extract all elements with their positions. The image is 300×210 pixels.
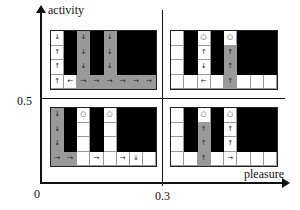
grid-cell bbox=[237, 60, 250, 75]
grid-cell bbox=[211, 137, 224, 152]
grid-cell bbox=[264, 60, 277, 75]
grid-cell bbox=[184, 46, 197, 61]
grid-cell bbox=[117, 46, 130, 61]
grid-cell: ↓ bbox=[77, 60, 90, 75]
grid-cell bbox=[90, 123, 103, 138]
grid-cell bbox=[90, 108, 103, 123]
grid-cell: ○ bbox=[77, 108, 90, 123]
grid-cell bbox=[264, 137, 277, 152]
grid-panel-top-left: ↓↓↓↑↓↓↑↓↓↑←→→→→→→ bbox=[50, 30, 157, 90]
grid-cell bbox=[251, 108, 264, 123]
grid-cell: → bbox=[51, 152, 64, 167]
grid-cell bbox=[90, 31, 103, 46]
grid-cell: ○ bbox=[198, 31, 211, 46]
grid-cell: ↑ bbox=[51, 46, 64, 61]
grid-cell: → bbox=[90, 75, 103, 90]
grid-cell: ○ bbox=[104, 108, 117, 123]
grid-cell bbox=[251, 137, 264, 152]
grid-cell bbox=[143, 137, 156, 152]
grid-cell bbox=[251, 123, 264, 138]
grid-cell bbox=[143, 46, 156, 61]
grid-cell bbox=[251, 60, 264, 75]
grid-cell: ○ bbox=[198, 108, 211, 123]
grid-cell: ↑ bbox=[224, 123, 237, 138]
grid-cell bbox=[130, 46, 143, 61]
grid-cell bbox=[90, 46, 103, 61]
grid-cell bbox=[251, 31, 264, 46]
grid-cell bbox=[117, 137, 130, 152]
y-axis bbox=[40, 10, 42, 183]
grid-cell: ↓ bbox=[198, 60, 211, 75]
x-tick-label: 0.3 bbox=[155, 189, 170, 204]
grid-cell: ↑ bbox=[51, 60, 64, 75]
grid-cell bbox=[251, 152, 264, 167]
activity-threshold-line bbox=[40, 98, 285, 99]
grid-cell bbox=[143, 123, 156, 138]
grid-cell: ↓ bbox=[51, 31, 64, 46]
grid-cell: ↓ bbox=[77, 46, 90, 61]
grid-cell bbox=[143, 108, 156, 123]
grid-cell bbox=[251, 46, 264, 61]
grid-cell bbox=[90, 60, 103, 75]
grid-cell bbox=[171, 108, 184, 123]
grid-cell bbox=[104, 152, 117, 167]
grid-cell bbox=[77, 137, 90, 152]
grid-cell: ↑ bbox=[198, 152, 211, 167]
grid-cell bbox=[211, 152, 224, 167]
grid-cell bbox=[77, 123, 90, 138]
grid-cell bbox=[143, 152, 156, 167]
grid-cell bbox=[264, 46, 277, 61]
grid-cell bbox=[130, 123, 143, 138]
grid-cell bbox=[77, 152, 90, 167]
y-tick-label: 0.5 bbox=[17, 94, 32, 109]
grid-cell: ↑ bbox=[224, 46, 237, 61]
grid-cell bbox=[251, 75, 264, 90]
grid-cell bbox=[184, 108, 197, 123]
grid-cell bbox=[237, 123, 250, 138]
grid-cell bbox=[64, 137, 77, 152]
grid-cell: ↑ bbox=[198, 123, 211, 138]
grid-panel-top-right: ○○↑↑↓↑←↑ bbox=[170, 30, 278, 90]
grid-cell bbox=[171, 46, 184, 61]
grid-cell bbox=[237, 152, 250, 167]
grid-cell bbox=[171, 31, 184, 46]
grid-cell bbox=[237, 137, 250, 152]
grid-cell bbox=[171, 60, 184, 75]
grid-cell: ↓ bbox=[130, 152, 143, 167]
origin-label: 0 bbox=[34, 187, 40, 202]
grid-cell: → bbox=[130, 75, 143, 90]
grid-cell bbox=[211, 108, 224, 123]
grid-cell bbox=[184, 137, 197, 152]
grid-cell bbox=[130, 108, 143, 123]
grid-cell: ↑ bbox=[224, 137, 237, 152]
grid-cell: ↓ bbox=[104, 31, 117, 46]
grid-cell bbox=[130, 60, 143, 75]
grid-cell bbox=[184, 75, 197, 90]
grid-cell bbox=[184, 60, 197, 75]
grid-cell bbox=[264, 31, 277, 46]
grid-cell: ← bbox=[198, 75, 211, 90]
grid-cell bbox=[104, 137, 117, 152]
grid-cell bbox=[64, 60, 77, 75]
grid-cell: ↓ bbox=[51, 137, 64, 152]
grid-cell bbox=[171, 137, 184, 152]
grid-cell: ↑ bbox=[198, 46, 211, 61]
grid-cell bbox=[104, 123, 117, 138]
grid-cell: → bbox=[90, 152, 103, 167]
grid-cell bbox=[64, 108, 77, 123]
grid-cell bbox=[184, 152, 197, 167]
grid-cell bbox=[64, 46, 77, 61]
grid-cell bbox=[171, 75, 184, 90]
grid-cell bbox=[117, 31, 130, 46]
grid-cell bbox=[264, 152, 277, 167]
grid-cell: ↓ bbox=[51, 108, 64, 123]
grid-cell bbox=[211, 60, 224, 75]
grid-cell: → bbox=[117, 75, 130, 90]
grid-cell bbox=[264, 123, 277, 138]
grid-cell: ↑ bbox=[51, 75, 64, 90]
grid-cell: → bbox=[224, 152, 237, 167]
grid-cell: ○ bbox=[224, 31, 237, 46]
grid-cell bbox=[130, 31, 143, 46]
grid-cell: ○ bbox=[224, 108, 237, 123]
grid-panel-bottom-left: ↓○○↓↓→→→→↓ bbox=[50, 107, 157, 167]
